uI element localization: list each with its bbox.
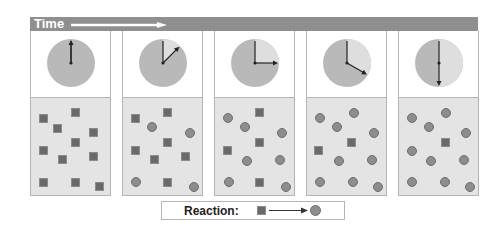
- product-circle-icon: [424, 122, 434, 132]
- time-panel-2: [122, 31, 203, 196]
- reactant-square-icon: [255, 178, 264, 187]
- time-panel-5: [398, 31, 479, 196]
- time-header-bar: Time: [30, 17, 478, 31]
- reactant-square-icon: [39, 114, 48, 123]
- product-circle-icon: [459, 155, 469, 165]
- reactant-square-icon: [314, 146, 323, 155]
- reactant-square-icon: [441, 138, 450, 147]
- product-circle-icon: [223, 113, 233, 123]
- reactant-square-icon: [163, 108, 172, 117]
- reactant-square-icon: [163, 178, 172, 187]
- reactant-square-icon: [347, 138, 356, 147]
- product-circle-icon: [441, 108, 451, 118]
- reactant-square-icon: [71, 108, 80, 117]
- product-circle-icon: [275, 155, 285, 165]
- product-circle-icon: [369, 128, 379, 138]
- particle-box: [307, 97, 386, 195]
- reactant-square-icon: [89, 128, 98, 137]
- clock-icon: [123, 31, 202, 97]
- reactant-square-icon: [181, 152, 190, 161]
- product-circle-icon: [407, 177, 417, 187]
- product-circle-icon: [281, 182, 291, 192]
- particle-box: [31, 97, 110, 195]
- reactant-square-icon: [39, 178, 48, 187]
- time-panel-1: [30, 31, 111, 196]
- time-panel-3: [214, 31, 295, 196]
- reactant-square-icon: [131, 146, 140, 155]
- product-circle-icon: [189, 182, 199, 192]
- reaction-arrow-icon: [269, 206, 309, 215]
- particle-box: [123, 97, 202, 195]
- product-circle-icon: [373, 182, 383, 192]
- product-circle-icon: [461, 128, 471, 138]
- clock-icon: [307, 31, 386, 97]
- product-circle-icon: [277, 128, 287, 138]
- reactant-square-icon: [71, 138, 80, 147]
- product-circle-icon: [315, 113, 325, 123]
- product-circle-icon: [310, 205, 321, 216]
- product-circle-icon: [348, 177, 358, 187]
- product-circle-icon: [407, 113, 417, 123]
- reactant-square-icon: [71, 178, 80, 187]
- product-circle-icon: [367, 155, 377, 165]
- clock-icon: [399, 31, 478, 97]
- time-label: Time: [34, 16, 64, 31]
- product-circle-icon: [315, 177, 325, 187]
- reactant-square-icon: [131, 114, 140, 123]
- clock-icon: [215, 31, 294, 97]
- reactant-square-icon: [53, 124, 62, 133]
- particle-box: [215, 97, 294, 195]
- reactant-square-icon: [150, 155, 159, 164]
- legend-label: Reaction:: [184, 204, 239, 218]
- reactant-square-icon: [58, 155, 67, 164]
- product-circle-icon: [332, 122, 342, 132]
- reactant-square-icon: [95, 182, 104, 191]
- product-circle-icon: [224, 177, 234, 187]
- product-circle-icon: [426, 156, 436, 166]
- reactant-square-icon: [39, 146, 48, 155]
- product-circle-icon: [242, 156, 252, 166]
- time-panel-4: [306, 31, 387, 196]
- time-arrow-icon: [71, 22, 167, 28]
- reactant-square-icon: [257, 206, 266, 215]
- particle-box: [399, 97, 478, 195]
- reactant-square-icon: [163, 138, 172, 147]
- product-circle-icon: [465, 182, 475, 192]
- product-circle-icon: [349, 108, 359, 118]
- product-circle-icon: [131, 177, 141, 187]
- product-circle-icon: [185, 128, 195, 138]
- reaction-legend: Reaction:: [161, 201, 345, 220]
- product-circle-icon: [147, 122, 157, 132]
- reactant-square-icon: [223, 146, 232, 155]
- reactant-square-icon: [89, 152, 98, 161]
- reactant-square-icon: [255, 138, 264, 147]
- product-circle-icon: [440, 177, 450, 187]
- clock-icon: [31, 31, 110, 97]
- product-circle-icon: [240, 122, 250, 132]
- reactant-square-icon: [255, 108, 264, 117]
- product-circle-icon: [407, 146, 417, 156]
- product-circle-icon: [334, 156, 344, 166]
